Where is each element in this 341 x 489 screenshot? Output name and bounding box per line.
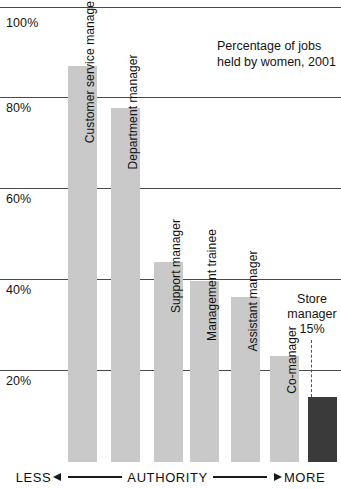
bar-label-wrap: Department manager — [111, 108, 140, 462]
x-axis-authority-scale: LESS AUTHORITY MORE — [0, 466, 341, 488]
bar-store-manager — [308, 397, 337, 462]
bar-label-wrap: Management trainee — [190, 281, 219, 462]
bar-label-department-manager: Department manager — [126, 54, 140, 169]
bar-label-wrap: Support manager — [154, 262, 183, 462]
bar-management-trainee: Management trainee — [190, 281, 219, 462]
arrow-head-right — [274, 473, 282, 481]
axis-baseline — [0, 462, 341, 463]
bar-label-assistant-manager: Assistant manager — [246, 250, 260, 351]
bar-department-manager: Department manager — [111, 108, 140, 462]
x-axis-left-label: LESS — [14, 470, 54, 485]
bar-assistant-manager: Assistant manager — [231, 297, 260, 462]
bar-label-customer-service-manager: Customer service manager — [83, 0, 97, 143]
arrow-shaft-left — [68, 476, 122, 478]
x-axis-center-label: AUTHORITY — [122, 470, 213, 485]
right-arrow-icon — [213, 472, 282, 483]
bar-label-wrap: Assistant manager — [231, 297, 260, 462]
annotation-line-2: manager — [283, 307, 341, 322]
arrow-head-left — [53, 473, 61, 481]
x-axis-right-label: MORE — [282, 470, 327, 485]
callout-leader-line — [311, 340, 312, 397]
bar-label-support-manager: Support manager — [169, 219, 183, 313]
store-manager-annotation: Store manager 15% — [283, 292, 341, 337]
bar-label-management-trainee: Management trainee — [205, 229, 219, 341]
bar-label-wrap: Co-manager — [270, 356, 299, 462]
chart-container: 100% 80% 60% 40% 20% Percentage of jobs … — [0, 0, 341, 489]
bar-label-wrap: Customer service manager — [68, 66, 97, 462]
annotation-value: 15% — [283, 322, 341, 337]
left-arrow-icon — [53, 472, 122, 483]
annotation-line-1: Store — [283, 292, 341, 307]
bar-co-manager: Co-manager — [270, 356, 299, 462]
plot-area: Customer service manager Department mana… — [0, 0, 341, 489]
bar-support-manager: Support manager — [154, 262, 183, 462]
bar-customer-service-manager: Customer service manager — [68, 66, 97, 462]
arrow-shaft-right — [213, 476, 267, 478]
